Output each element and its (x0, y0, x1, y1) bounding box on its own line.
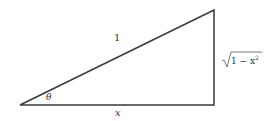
right-triangle (20, 10, 214, 105)
angle-label: θ (46, 93, 51, 102)
hypotenuse-label: 1 (114, 33, 120, 43)
base-label: x (115, 108, 121, 118)
triangle-figure (0, 0, 270, 121)
height-exponent: 2 (255, 54, 259, 61)
height-radicand: 1 − x (231, 56, 255, 66)
height-label: 1 − x2 (231, 55, 259, 66)
